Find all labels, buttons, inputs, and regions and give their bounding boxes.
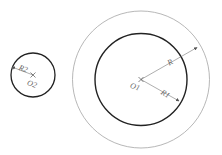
large-circle-group: R R1 O1 [73,11,210,148]
o2-label: O2 [26,78,38,90]
r1-dimension-line [141,80,179,102]
r1-label: R1 [158,87,171,100]
o1-label: O1 [129,81,141,93]
circles-diagram: R2 O2 R R1 O1 [0,0,222,155]
o1-center-mark [139,77,144,82]
small-circle-group: R2 O2 [11,53,55,97]
o2-center-mark [31,73,36,78]
r-label: R [165,57,175,68]
